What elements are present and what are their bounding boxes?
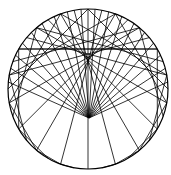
line xyxy=(61,164,75,168)
line xyxy=(115,150,139,164)
line xyxy=(23,43,90,118)
line xyxy=(37,150,61,164)
string-art-diagram xyxy=(0,0,171,175)
line xyxy=(19,129,48,158)
line xyxy=(9,14,60,103)
line xyxy=(102,164,116,168)
line xyxy=(11,68,89,118)
line xyxy=(115,14,166,103)
